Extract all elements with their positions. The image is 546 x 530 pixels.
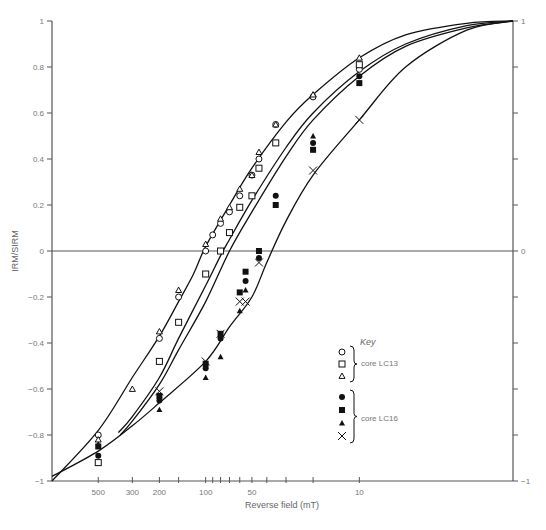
filled-square-marker [243, 269, 249, 275]
filled-square-marker [237, 289, 243, 295]
y-tick-label-left: 1 [40, 17, 45, 26]
curve-model-mid-2 [120, 21, 513, 435]
legend-label-lc13: core LC13 [361, 359, 398, 368]
filled-triangle-marker [243, 287, 249, 292]
open-triangle-marker [237, 186, 243, 191]
axes: 10.80.60.40.20−0.2−0.4−0.6−0.8−110−15003… [28, 17, 530, 497]
open-square-marker [203, 271, 209, 277]
filled-square-marker [310, 147, 316, 153]
open-triangle-marker [129, 386, 135, 391]
filled-circle-marker [310, 140, 316, 146]
filled-circle-marker [95, 453, 101, 459]
x-tick-label: 300 [126, 488, 140, 497]
y-tick-label-right: 0 [521, 247, 526, 256]
filled-square-marker [356, 80, 362, 86]
y-tick-label-left: −1 [35, 477, 45, 486]
y-tick-label-left: −0.2 [28, 293, 44, 302]
open-circle-marker [256, 156, 262, 162]
curve-model-mid-1 [118, 21, 513, 433]
open-circle-marker [176, 294, 182, 300]
open-square-marker [273, 140, 279, 146]
open-triangle-marker [256, 149, 262, 154]
open-square-marker [226, 230, 232, 236]
open-triangle-marker [226, 204, 232, 209]
filled-square-marker [339, 407, 345, 413]
x-tick-label: 100 [199, 488, 213, 497]
y-tick-label-left: 0 [40, 247, 45, 256]
x-tick-label: 200 [153, 488, 167, 497]
y-axis-title: IRM/SIRM [10, 230, 20, 272]
open-square-marker [156, 358, 162, 364]
irm-sirm-chart: 10.80.60.40.20−0.2−0.4−0.6−0.8−110−15003… [0, 0, 546, 530]
filled-circle-marker [339, 394, 345, 400]
open-square-marker [176, 319, 182, 325]
open-square-marker [95, 460, 101, 466]
x-tick-label: 10 [355, 488, 364, 497]
legend-label-lc16: core LC16 [361, 414, 398, 423]
open-triangle-marker [339, 373, 345, 378]
y-tick-label-left: 0.2 [33, 201, 45, 210]
open-triangle-marker [356, 55, 362, 60]
y-tick-label-left: 0.4 [33, 155, 45, 164]
y-tick-label-left: −0.8 [28, 431, 44, 440]
open-triangle-marker [176, 287, 182, 292]
open-square-marker [339, 361, 345, 367]
data-points [95, 55, 363, 466]
y-tick-label-right: 1 [521, 17, 526, 26]
filled-circle-marker [273, 193, 279, 199]
open-square-marker [237, 204, 243, 210]
open-square-marker [218, 248, 224, 254]
filled-triangle-marker [203, 375, 209, 380]
open-square-marker [249, 193, 255, 199]
filled-circle-marker [243, 278, 249, 284]
x-tick-label: 50 [247, 488, 256, 497]
legend-title: Key [360, 337, 376, 347]
open-circle-marker [156, 335, 162, 341]
open-circle-marker [203, 248, 209, 254]
filled-square-marker [273, 202, 279, 208]
y-tick-label-right: −1 [521, 477, 531, 486]
y-tick-label-left: 0.6 [33, 109, 45, 118]
open-square-marker [256, 165, 262, 171]
open-triangle-marker [156, 329, 162, 334]
filled-triangle-marker [156, 407, 162, 412]
y-tick-label-left: −0.4 [28, 339, 44, 348]
x-axis-title: Reverse field (mT) [245, 500, 319, 510]
open-square-marker [356, 62, 362, 68]
filled-square-marker [256, 248, 262, 254]
brace-lc16 [350, 390, 357, 443]
open-circle-marker [339, 349, 345, 355]
y-tick-label-left: 0.8 [33, 63, 45, 72]
x-tick-label: 500 [92, 488, 106, 497]
curve-envelope-lower [52, 21, 513, 476]
filled-circle-marker [356, 73, 362, 79]
filled-triangle-marker [339, 420, 345, 425]
open-circle-marker [210, 232, 216, 238]
open-circle-marker [237, 193, 243, 199]
filled-triangle-marker [310, 133, 316, 138]
brace-lc13 [350, 346, 357, 382]
filled-triangle-marker [218, 354, 224, 359]
legend: Key core LC13 core LC16 [338, 337, 398, 443]
y-tick-label-left: −0.6 [28, 385, 44, 394]
